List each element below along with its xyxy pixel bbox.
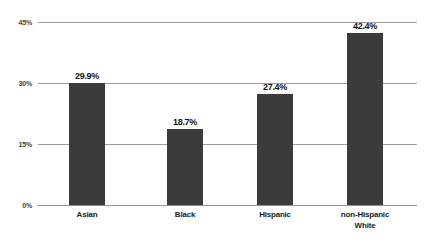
x-axis-tick-label-line: White: [310, 220, 420, 231]
bar-asian[interactable]: [69, 83, 105, 205]
bar-black[interactable]: [167, 129, 203, 205]
bar-non-hispanic-white[interactable]: [347, 33, 383, 205]
y-axis-tick-label: 45%: [19, 19, 38, 26]
bar-value-label: 42.4%: [353, 21, 377, 31]
y-axis-tick-label: 30%: [19, 80, 38, 87]
x-axis-tick-label: non-HispanicWhite: [310, 209, 420, 231]
bar-value-label: 29.9%: [75, 71, 99, 81]
x-axis-tick-label-line: Asian: [77, 210, 98, 219]
bar-value-label: 27.4%: [263, 82, 287, 92]
x-axis-tick-label: Asian: [32, 209, 142, 220]
x-axis-tick-label-line: non-Hispanic: [341, 210, 389, 219]
y-axis-tick-label: 15%: [19, 141, 38, 148]
gridline-0pct: 0%: [38, 205, 417, 206]
y-axis-tick-label: 0%: [22, 202, 38, 209]
bar-hispanic[interactable]: [257, 94, 293, 205]
x-axis-tick-label-line: Hispanic: [259, 210, 291, 219]
bar-chart: 0%15%30%45% 29.9%18.7%27.4%42.4% AsianBl…: [0, 0, 437, 249]
bar-value-label: 18.7%: [173, 117, 197, 127]
plot-area: 0%15%30%45% 29.9%18.7%27.4%42.4%: [38, 22, 417, 205]
x-axis-tick-label-line: Black: [175, 210, 195, 219]
